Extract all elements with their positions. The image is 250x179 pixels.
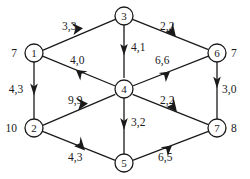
edge-label-5-to-7: 6,5	[158, 151, 173, 164]
node-7[interactable]: 7	[208, 119, 226, 137]
edge-label-2-to-5: 4,3	[68, 151, 83, 164]
node-6[interactable]: 6	[208, 44, 226, 62]
edge-3-to-4	[120, 25, 128, 78]
edge-6-to-7	[213, 62, 221, 119]
edge-label-3-to-4: 4,1	[131, 41, 146, 54]
edge-4-to-6-line	[133, 56, 209, 86]
node-5-label: 5	[121, 157, 127, 169]
edge-label-1-to-2: 4,3	[9, 83, 24, 96]
edge-label-4-to-1: 4,0	[70, 54, 85, 67]
node-side-label-7: 8	[231, 122, 237, 134]
node-4-label: 4	[121, 83, 127, 95]
flow-network-diagram: 3,3 2,2 4,1 4,0 6,6 4,3 9,9 3,0 2,2 3,2 …	[0, 0, 250, 179]
node-1[interactable]: 1	[25, 44, 43, 62]
edge-label-4-to-7: 2,2	[160, 94, 175, 107]
node-5[interactable]: 5	[115, 154, 133, 172]
node-2-label: 2	[31, 122, 37, 134]
node-side-label-1: 7	[11, 47, 17, 59]
edge-label-4-to-5: 3,2	[131, 116, 146, 129]
edge-label-2-to-4: 9,9	[68, 94, 83, 107]
edge-label-1-to-3: 3,3	[62, 20, 77, 33]
node-2[interactable]: 2	[25, 119, 43, 137]
nodes-layer: 1 2 3 4 5 6	[25, 7, 226, 172]
edge-1-to-3	[43, 19, 116, 50]
edge-1-to-2	[30, 62, 38, 119]
node-3[interactable]: 3	[115, 7, 133, 25]
edge-label-6-to-7: 3,0	[222, 83, 237, 96]
edge-label-3-to-6: 2,2	[160, 20, 175, 33]
edge-label-4-to-6: 6,6	[155, 54, 170, 67]
edge-4-to-5	[120, 98, 128, 154]
edge-4-to-6-arrowhead	[159, 72, 170, 83]
edge-2-to-5-arrowhead	[74, 136, 85, 150]
edge-4-to-1-arrowhead	[76, 70, 88, 81]
node-3-label: 3	[121, 10, 127, 22]
node-4[interactable]: 4	[115, 80, 133, 98]
node-side-label-6: 7	[231, 47, 237, 59]
node-6-label: 6	[214, 47, 220, 59]
node-side-label-2: 10	[6, 122, 18, 134]
edge-4-to-6	[133, 56, 209, 86]
graph-svg-canvas: 3,3 2,2 4,1 4,0 6,6 4,3 9,9 3,0 2,2 3,2 …	[0, 0, 250, 179]
node-1-label: 1	[31, 47, 37, 59]
node-7-label: 7	[214, 122, 220, 134]
edge-1-to-3-line	[43, 19, 116, 50]
